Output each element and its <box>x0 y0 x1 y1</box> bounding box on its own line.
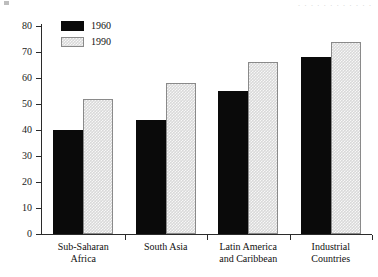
legend-label-1990: 1990 <box>91 37 111 47</box>
bar-1990-1 <box>83 99 113 234</box>
bar-1990-4 <box>331 42 361 234</box>
y-tick-label-20: 20 <box>10 177 32 187</box>
legend-item-1990: 1990 <box>61 34 111 50</box>
y-tick-label-30: 30 <box>10 151 32 161</box>
category-label-3: Latin Americaand Caribbean <box>207 241 290 265</box>
title-remnant-text: · · · · · · · · · · · · <box>297 0 372 10</box>
plot-area <box>42 26 372 234</box>
y-tick-10 <box>36 208 41 209</box>
y-tick-70 <box>36 52 41 53</box>
bar-1960-1 <box>53 130 83 234</box>
bar-1960-3 <box>218 91 248 234</box>
category-label-line2: Countries <box>290 253 373 265</box>
y-tick-label-50: 50 <box>10 99 32 109</box>
bar-1990-2 <box>166 83 196 234</box>
y-tick-label-60: 60 <box>10 73 32 83</box>
y-tick-40 <box>36 130 41 131</box>
y-tick-label-40: 40 <box>10 125 32 135</box>
legend-item-1960: 1960 <box>61 18 111 34</box>
y-tick-label-80: 80 <box>10 21 32 31</box>
bar-1990-3 <box>248 62 278 234</box>
category-label-2: South Asia <box>125 241 208 253</box>
category-label-1: Sub-SaharanAfrica <box>42 241 125 265</box>
y-tick-label-10: 10 <box>10 203 32 213</box>
y-tick-80 <box>36 26 41 27</box>
legend-swatch-1990 <box>61 37 84 47</box>
category-label-line2: and Caribbean <box>207 253 290 265</box>
x-tick-1 <box>125 235 126 240</box>
bar-chart: · · · · · · · · · · · · 0102030405060708… <box>0 0 378 277</box>
y-tick-label-0: 0 <box>10 229 32 239</box>
y-tick-60 <box>36 78 41 79</box>
legend-swatch-1960 <box>61 21 84 31</box>
category-label-line1: Latin America <box>207 241 290 253</box>
bar-1960-2 <box>136 120 166 234</box>
title-bullet-icon <box>4 1 9 5</box>
y-tick-50 <box>36 104 41 105</box>
category-label-line2: Africa <box>42 253 125 265</box>
category-label-4: IndustrialCountries <box>290 241 373 265</box>
category-label-line1: Sub-Saharan <box>42 241 125 253</box>
y-tick-0 <box>36 234 41 235</box>
legend-label-1960: 1960 <box>91 21 111 31</box>
category-label-line1: South Asia <box>125 241 208 253</box>
y-tick-label-70: 70 <box>10 47 32 57</box>
y-tick-20 <box>36 182 41 183</box>
x-tick-4 <box>372 235 373 240</box>
y-tick-30 <box>36 156 41 157</box>
category-label-line1: Industrial <box>290 241 373 253</box>
x-tick-3 <box>290 235 291 240</box>
x-tick-2 <box>207 235 208 240</box>
chart-legend: 1960 1990 <box>61 18 111 50</box>
bar-1960-4 <box>301 57 331 234</box>
cropped-title-remnant: · · · · · · · · · · · · <box>0 0 378 10</box>
